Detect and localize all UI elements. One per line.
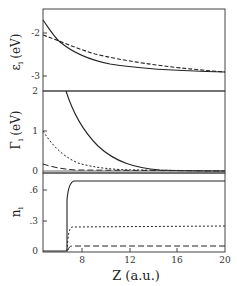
bot-ytick-06: .6	[29, 185, 38, 195]
svg-text:ni: ni	[9, 206, 25, 217]
gamma-long-dashed-line	[43, 164, 225, 171]
epsilon-dashed-line	[43, 35, 225, 72]
gamma-solid-line	[66, 91, 225, 171]
xtick-20: 20	[219, 255, 231, 265]
epsilon-solid-line	[43, 20, 225, 72]
n-long-dashed-line	[68, 246, 225, 250]
bottom-ylabel: ni	[9, 206, 25, 217]
bot-ytick-0: 0	[32, 246, 38, 256]
top-panel-frame	[43, 9, 225, 91]
n-solid-line	[43, 181, 225, 251]
n-short-dashed-line	[67, 226, 225, 251]
mid-ytick-2: 2	[32, 86, 38, 96]
bot-ytick-03: .3	[29, 216, 38, 226]
xtick-8: 8	[79, 255, 85, 265]
mid-ytick-0: 0	[32, 166, 38, 176]
xtick-12: 12	[124, 255, 135, 265]
figure: -2 -3 2 1 0 .6 .3 0 8 12 16 20 εi(eV) Γi…	[0, 0, 237, 286]
x-axis-label: Z (a.u.)	[112, 268, 160, 283]
top-ylabel: εi(eV)	[9, 34, 25, 71]
x-tick-marks	[82, 248, 177, 252]
y-tick-marks	[43, 33, 47, 221]
mid-ytick-1: 1	[32, 126, 38, 136]
top-ytick-neg3: -3	[31, 71, 40, 81]
middle-panel-curves	[43, 91, 225, 171]
bottom-panel-curves	[43, 181, 225, 251]
svg-text:εi(eV): εi(eV)	[9, 34, 25, 71]
xtick-16: 16	[171, 255, 183, 265]
middle-ylabel: Γi(eV)	[9, 110, 25, 149]
top-panel-curves	[43, 20, 225, 72]
top-ytick-neg2: -2	[31, 28, 40, 38]
gamma-short-dashed-line	[43, 131, 225, 171]
svg-text:Γi(eV): Γi(eV)	[9, 110, 25, 149]
